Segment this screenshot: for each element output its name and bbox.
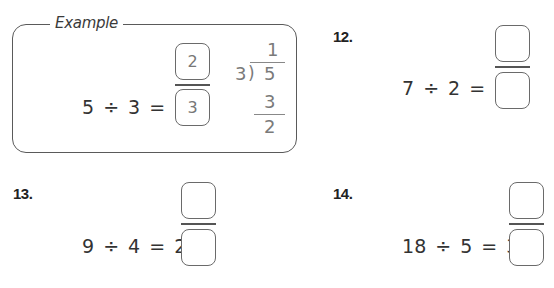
example-fraction-line [175,84,210,86]
example-divisor: 3 [128,96,140,118]
long-division-bracket: ) [248,63,255,83]
example-title: Example [50,14,123,32]
example-numerator: 2 [187,52,197,71]
fraction-line [495,66,530,68]
long-division-divisor: 3 [235,64,246,84]
long-division-subtract: 3 [264,92,275,112]
equals-symbol: = [149,235,165,257]
example-equation: 5÷3=1 [70,74,186,118]
equals-symbol: = [149,96,165,118]
denominator-input-box[interactable] [495,72,530,109]
divisor: 5 [460,235,472,257]
problem-13-equation: 9÷4=2 [70,213,186,257]
long-division-quotient: 1 [267,40,278,60]
divisor: 2 [448,77,460,99]
problem-12-equation: 7÷2=3 [390,55,506,99]
example-denominator-box: 3 [175,89,210,126]
example-dividend: 5 [82,96,94,118]
long-division-dividend: 5 [264,64,275,84]
numerator-input-box[interactable] [509,182,544,219]
example-numerator-box: 2 [175,43,210,80]
denominator-input-box[interactable] [509,229,544,266]
numerator-input-box[interactable] [181,182,216,219]
problem-14-equation: 18÷5=3 [390,213,518,257]
long-division-subtract-line [254,114,285,115]
divide-symbol: ÷ [423,77,439,99]
equals-symbol: = [481,235,497,257]
divide-symbol: ÷ [103,235,119,257]
dividend: 7 [402,77,414,99]
divide-symbol: ÷ [103,96,119,118]
fraction-line [509,223,544,225]
long-division-remainder: 2 [264,117,275,137]
divisor: 4 [128,235,140,257]
numerator-input-box[interactable] [495,25,530,62]
denominator-input-box[interactable] [181,229,216,266]
example-denominator: 3 [187,98,197,117]
equals-symbol: = [469,77,485,99]
problem-number: 12. [333,28,352,45]
dividend: 9 [82,235,94,257]
fraction-line [181,223,216,225]
divide-symbol: ÷ [435,235,451,257]
dividend: 18 [402,235,426,257]
problem-number: 14. [333,185,352,202]
problem-number: 13. [13,185,32,202]
